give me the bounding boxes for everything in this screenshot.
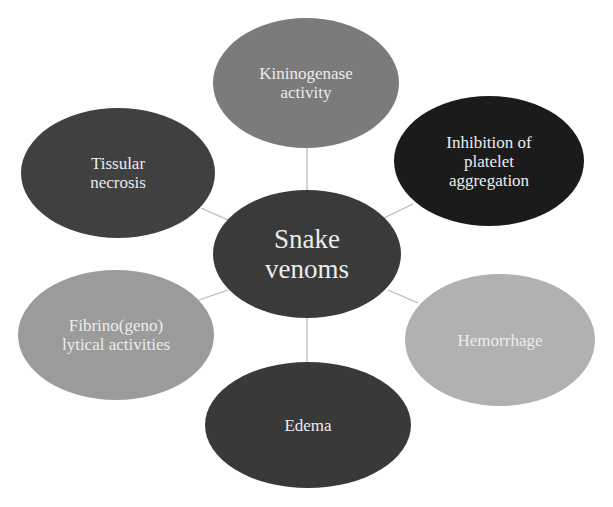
node-kininogenase-label: Kininogenase activity [249,64,362,102]
node-fibrinogenolytic-activities: Fibrino(geno) lytical activities [18,270,214,400]
label-line: platelet [446,152,531,171]
connector-tissular [201,208,228,220]
label-line: aggregation [446,171,531,190]
label-line: activity [259,83,352,102]
node-tissular-necrosis: Tissular necrosis [21,108,215,238]
node-hemorrhage-label: Hemorrhage [448,331,553,350]
center-label-line2: venoms [265,254,349,284]
node-tissular-label: Tissular necrosis [80,154,156,192]
connector-fibrino [199,290,228,300]
node-edema-label: Edema [274,416,341,435]
node-platelet-label: Inhibition of platelet aggregation [436,133,541,190]
node-fibrino-label: Fibrino(geno) lytical activities [52,316,180,354]
node-kininogenase: Kininogenase activity [213,18,399,148]
label-line: lytical activities [62,335,170,354]
label-line: Kininogenase [259,64,352,83]
node-edema: Edema [205,362,411,488]
label-line: Tissular [90,154,146,173]
center-label-line1: Snake [265,224,349,254]
center-node-label: Snake venoms [255,224,359,284]
node-hemorrhage: Hemorrhage [405,274,595,406]
label-line: necrosis [90,173,146,192]
connector-hemorrhage [388,290,418,303]
snake-venom-diagram: Snake venoms Kininogenase activity Inhib… [0,0,613,507]
center-node-snake-venoms: Snake venoms [213,190,401,318]
node-inhibition-platelet-aggregation: Inhibition of platelet aggregation [394,96,584,226]
label-line: Edema [284,416,331,435]
label-line: Fibrino(geno) [62,316,170,335]
connector-platelet [384,204,413,218]
label-line: Hemorrhage [458,331,543,350]
label-line: Inhibition of [446,133,531,152]
